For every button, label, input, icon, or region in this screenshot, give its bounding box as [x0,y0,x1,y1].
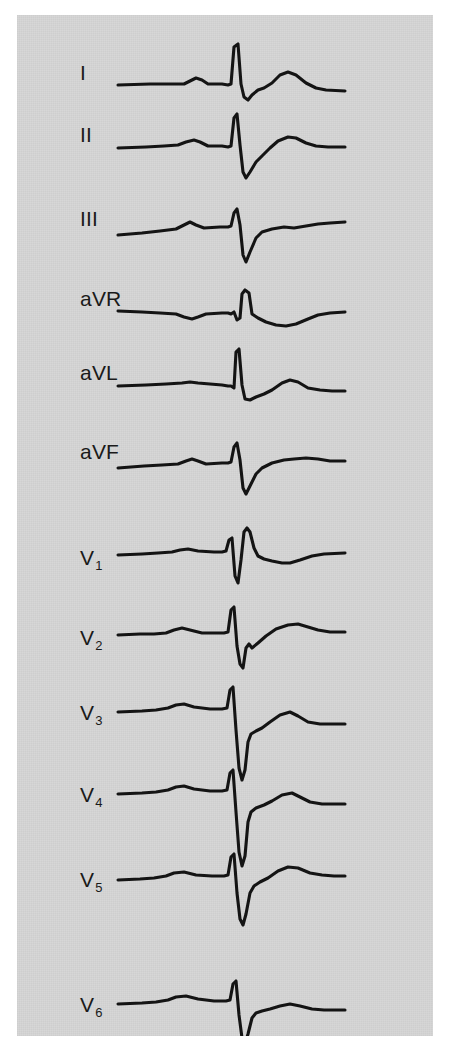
lead-label-text: III [80,207,98,230]
ecg-trace-avl [118,349,345,400]
lead-label-v4: V4 [80,784,102,805]
ecg-trace-v2 [118,607,345,668]
lead-label-avl: aVL [80,362,118,383]
ecg-trace-avr [118,290,345,326]
lead-label-text: I [80,61,86,84]
ecg-trace-group [118,44,345,1044]
lead-label-v6: V6 [80,994,102,1015]
lead-label-iii: III [80,208,98,229]
lead-label-i: I [80,62,86,83]
lead-label-text: aVR [80,287,121,310]
lead-label-text: aVF [80,440,119,463]
lead-label-subscript: 3 [95,713,102,728]
lead-label-subscript: 4 [95,795,102,810]
lead-label-subscript: 1 [95,558,102,573]
lead-label-v3: V3 [80,702,102,723]
ecg-trace-v6 [118,981,345,1044]
lead-label-text: V [80,868,94,891]
ecg-figure: IIIIIIaVRaVLaVFV1V2V3V4V5V6 [0,0,452,1053]
ecg-trace-avf [118,443,345,494]
lead-label-subscript: 6 [95,1005,102,1020]
ecg-trace-v3 [118,687,345,780]
lead-label-text: V [80,701,94,724]
lead-label-text: II [80,123,92,146]
ecg-trace-v5 [118,854,345,925]
lead-label-subscript: 2 [95,638,102,653]
lead-label-avf: aVF [80,441,119,462]
lead-label-avr: aVR [80,288,121,309]
ecg-trace-ii [118,114,345,178]
ecg-trace-i [118,44,345,100]
ecg-trace-v4 [118,770,345,866]
lead-label-v5: V5 [80,869,102,890]
lead-label-text: aVL [80,361,118,384]
lead-label-v2: V2 [80,627,102,648]
ecg-traces [0,0,452,1053]
lead-label-text: V [80,993,94,1016]
lead-label-subscript: 5 [95,880,102,895]
lead-label-text: V [80,626,94,649]
ecg-trace-v1 [118,528,345,583]
lead-label-v1: V1 [80,547,102,568]
lead-label-text: V [80,783,94,806]
lead-label-ii: II [80,124,92,145]
ecg-trace-iii [118,209,345,262]
lead-label-text: V [80,546,94,569]
